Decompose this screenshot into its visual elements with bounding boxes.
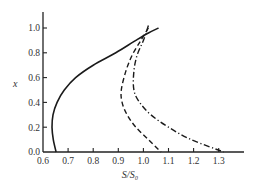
x-tick-label: 0.6 (37, 156, 49, 166)
curves (52, 26, 224, 153)
y-tick-label: 0.6 (28, 73, 40, 83)
x-tick-label: 1.1 (163, 156, 175, 166)
y-tick-label: 0.2 (28, 123, 40, 133)
chart: 0.60.70.80.91.01.11.21.30.00.20.40.60.81… (0, 0, 258, 191)
x-tick-label: 1.3 (213, 156, 225, 166)
x-tick-label: 0.8 (87, 156, 99, 166)
y-tick-label: 0.4 (28, 98, 40, 108)
x-tick-label: 0.7 (62, 156, 74, 166)
curve-dash-dot (133, 26, 223, 153)
x-axis-label: S/S₀ (122, 169, 139, 180)
x-tick-label: 0.9 (112, 156, 124, 166)
axes (43, 12, 244, 152)
ticks (43, 28, 219, 152)
curve-solid (52, 28, 159, 152)
x-tick-label: 1.0 (137, 156, 149, 166)
tick-labels: 0.60.70.80.91.01.11.21.30.00.20.40.60.81… (28, 23, 225, 166)
y-tick-label: 0.0 (28, 147, 40, 157)
y-axis-label: x (12, 78, 18, 89)
y-tick-label: 0.8 (28, 48, 40, 58)
y-tick-label: 1.0 (28, 23, 40, 33)
x-tick-label: 1.2 (188, 156, 200, 166)
